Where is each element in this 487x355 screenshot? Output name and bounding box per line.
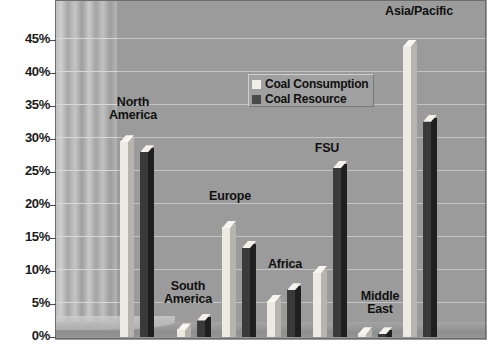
gridline-wall-segment <box>55 137 117 138</box>
y-axis-tick-label: 35% <box>0 97 50 112</box>
bar-front-face <box>423 121 431 337</box>
legend-item-coal-resource: Coal Resource <box>252 92 370 106</box>
y-axis-tick-label: 40% <box>0 64 50 79</box>
group-label-south-america: South America <box>157 280 219 306</box>
bar-side-face <box>321 269 327 337</box>
gridline <box>55 38 487 39</box>
gridline-wall-segment <box>55 269 117 270</box>
gridline-wall-segment <box>55 203 117 204</box>
y-axis-tick-mark <box>50 40 56 41</box>
floor-wave <box>55 316 175 330</box>
bar-front-face <box>177 329 185 337</box>
bar-front-face <box>222 227 230 337</box>
bar-coal-resource <box>423 115 437 337</box>
y-axis-tick-label: 15% <box>0 229 50 244</box>
gridline-wall-segment <box>55 302 117 303</box>
y-axis-tick-label: 20% <box>0 196 50 211</box>
bar-front-face <box>287 289 295 337</box>
y-axis-tick-label: 0% <box>0 328 50 343</box>
legend-item-coal-consumption: Coal Consumption <box>252 77 370 91</box>
bar-front-face <box>242 247 250 337</box>
bar-side-face <box>431 118 437 337</box>
bar-coal-consumption <box>222 221 236 337</box>
y-axis-tick-label: 10% <box>0 262 50 277</box>
bar-front-face <box>333 167 341 337</box>
bar-coal-resource <box>333 161 347 337</box>
bar-coal-resource <box>242 241 256 337</box>
bar-front-face <box>313 272 321 337</box>
bar-side-face <box>230 224 236 337</box>
y-axis-tick-mark <box>50 337 56 338</box>
legend-label: Coal Consumption <box>265 77 368 91</box>
bar-coal-consumption <box>358 327 372 337</box>
group-label-middle-east: Middle East <box>353 290 407 316</box>
y-axis-tick-mark <box>50 271 56 272</box>
y-axis-tick-label: 45% <box>0 31 50 46</box>
gridline-wall-segment <box>55 170 117 171</box>
y-axis-tick-label: 5% <box>0 295 50 310</box>
y-axis-tick-mark <box>50 139 56 140</box>
legend-swatch-icon-dark <box>252 95 261 104</box>
bar-side-face <box>205 317 211 338</box>
y-axis-tick-mark <box>50 73 56 74</box>
y-axis-tick-label: 30% <box>0 130 50 145</box>
group-label-asia-pacific: Asia/Pacific <box>373 5 465 18</box>
group-label-north-america: North America <box>100 96 166 122</box>
bar-coal-resource <box>140 145 154 337</box>
chart-legend: Coal Consumption Coal Resource <box>248 74 374 107</box>
gridline-wall-segment <box>55 236 117 237</box>
bar-front-face <box>267 301 275 337</box>
bar-front-face <box>197 320 205 338</box>
y-axis-tick-mark <box>50 238 56 239</box>
group-label-africa: Africa <box>258 258 312 271</box>
gridline-wall-segment <box>55 71 117 72</box>
legend-label: Coal Resource <box>265 92 346 106</box>
bar-coal-consumption <box>313 266 327 337</box>
legend-swatch-icon-light <box>252 80 261 89</box>
bar-coal-resource <box>287 283 301 337</box>
gridline-wall-segment <box>55 38 117 39</box>
y-axis-tick-mark <box>50 172 56 173</box>
y-axis-tick-mark <box>50 304 56 305</box>
bar-coal-resource <box>197 314 211 338</box>
bar-side-face <box>295 286 301 337</box>
y-axis-tick-mark <box>50 205 56 206</box>
y-axis-tick-label: 25% <box>0 163 50 178</box>
group-label-fsu: FSU <box>305 142 349 155</box>
bar-front-face <box>140 151 148 337</box>
bar-side-face <box>250 244 256 337</box>
group-label-europe: Europe <box>200 190 260 203</box>
bar-coal-consumption <box>120 135 134 337</box>
bar-side-face <box>128 138 134 337</box>
bar-coal-consumption <box>177 323 191 337</box>
gridline <box>55 71 487 72</box>
y-axis-tick-mark <box>50 106 56 107</box>
bar-coal-consumption <box>267 295 281 337</box>
coal-chart: North AmericaSouth AmericaEuropeAfricaFS… <box>0 0 487 355</box>
bar-front-face <box>120 141 128 337</box>
plot-area: North AmericaSouth AmericaEuropeAfricaFS… <box>55 0 487 340</box>
bar-side-face <box>275 298 281 337</box>
bar-side-face <box>341 164 347 337</box>
bar-side-face <box>411 43 417 337</box>
bar-side-face <box>148 148 154 337</box>
bar-coal-resource <box>378 327 392 337</box>
